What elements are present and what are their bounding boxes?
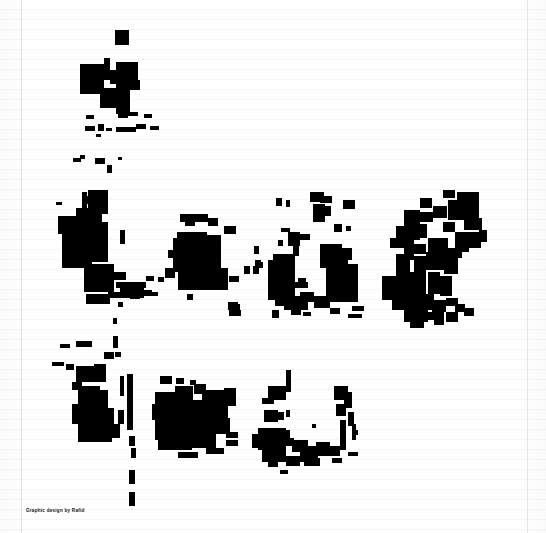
ink-blob (303, 312, 311, 316)
ink-blob (291, 310, 301, 315)
ink-blob (115, 30, 129, 45)
ink-blob (433, 206, 447, 218)
ink-blob (118, 302, 123, 307)
ink-blob (208, 218, 218, 226)
ink-blob (100, 88, 118, 108)
ink-blob (120, 376, 124, 396)
ink-blob (228, 302, 238, 307)
ink-blob (226, 432, 238, 438)
ink-blob (348, 452, 358, 456)
ink-blob (254, 246, 259, 254)
ink-blob (76, 341, 92, 347)
ink-blob (352, 306, 364, 311)
ink-blob (404, 310, 428, 322)
ink-blob (136, 124, 146, 129)
ink-blob (126, 112, 138, 116)
ink-blob (268, 260, 276, 300)
ink-blob (56, 202, 62, 205)
ink-blob (127, 374, 133, 430)
ink-blob (440, 276, 452, 296)
ink-blob (129, 470, 135, 484)
ink-blob (229, 310, 241, 316)
ink-blob (95, 158, 105, 164)
ink-blob (464, 218, 482, 230)
ink-blob (120, 230, 125, 244)
ink-blob (112, 424, 120, 438)
ink-blob (479, 230, 487, 242)
ink-blob (140, 290, 152, 296)
ink-blob (280, 470, 288, 474)
ink-blob (86, 115, 94, 119)
ink-blob (178, 268, 228, 290)
ink-blob (78, 418, 112, 442)
ink-blob (428, 272, 440, 294)
ink-blob (180, 214, 208, 222)
ink-blob (165, 268, 175, 278)
ink-blob (252, 434, 266, 448)
ink-blob (448, 248, 462, 258)
ink-blob (224, 388, 236, 406)
ink-blob (158, 277, 164, 282)
ink-blob (85, 126, 95, 131)
ink-blob (313, 204, 325, 222)
ink-blob (106, 128, 112, 131)
ink-blob (278, 240, 283, 246)
ink-blob (152, 292, 158, 296)
ink-blob (60, 344, 70, 348)
ink-blob (155, 418, 191, 440)
ink-blob (443, 190, 455, 198)
ink-blob (268, 462, 278, 467)
ink-blob (90, 248, 108, 262)
ink-blob (118, 157, 122, 160)
ink-blob (412, 244, 426, 254)
ink-blob (116, 127, 136, 132)
ink-blob (276, 198, 282, 206)
ink-blob (332, 458, 342, 463)
ink-blob (340, 248, 352, 260)
ink-blob (190, 420, 216, 438)
ink-blob (107, 165, 112, 173)
ink-blob (281, 256, 290, 294)
ink-blob (160, 376, 172, 384)
ink-blob (205, 235, 221, 259)
ink-blob (348, 314, 362, 318)
ink-blob (262, 448, 286, 462)
ink-blob (304, 458, 320, 466)
ink-blob (229, 276, 239, 282)
ink-blob (336, 404, 346, 416)
ink-blob (129, 436, 135, 446)
ink-blob (420, 198, 432, 208)
ink-blob (288, 282, 308, 288)
ink-blob (187, 294, 193, 300)
ink-blob (130, 80, 140, 90)
ink-blob (340, 420, 346, 450)
ink-blob (113, 336, 118, 348)
ink-blob (118, 410, 124, 424)
ink-blob (116, 62, 138, 80)
ink-blob (146, 276, 154, 281)
ink-blob (176, 378, 184, 384)
ink-blob (320, 196, 332, 203)
ink-blob (158, 438, 192, 450)
ink-blob (224, 226, 236, 234)
ink-blob (417, 224, 427, 238)
ink-blob (112, 272, 126, 280)
ink-blob (464, 308, 474, 316)
ink-blob (131, 448, 136, 458)
ink-blob (443, 222, 455, 232)
ink-blob (346, 226, 351, 231)
ink-blob (85, 196, 94, 204)
ink-blob (92, 212, 101, 218)
ink-blob (276, 412, 284, 420)
ink-blob (428, 312, 444, 320)
ink-blob (446, 312, 458, 322)
caption-text: Graphic design by Rafid (26, 508, 85, 513)
ink-blob (300, 292, 314, 302)
ink-blob (419, 212, 433, 222)
ink-blob (84, 264, 114, 292)
ink-blob (255, 262, 263, 268)
ink-blob (62, 228, 88, 252)
ink-blob (66, 364, 74, 370)
ink-blob (115, 352, 121, 357)
ink-blob (52, 362, 64, 366)
